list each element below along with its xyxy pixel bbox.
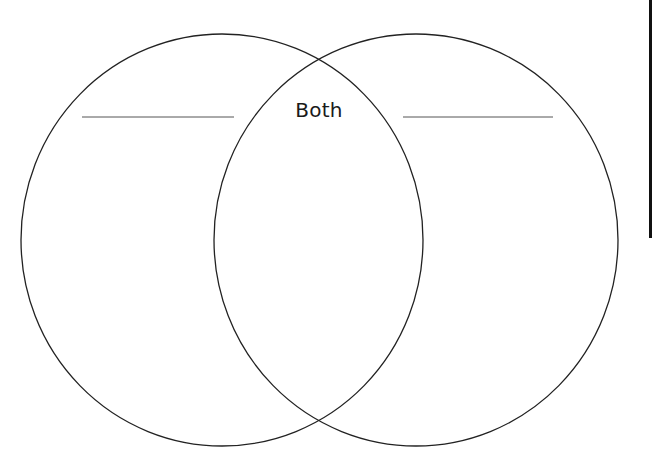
left-circle xyxy=(21,34,423,446)
intersection-label: Both xyxy=(280,97,358,123)
right-circle xyxy=(214,34,618,446)
venn-diagram xyxy=(0,0,652,468)
